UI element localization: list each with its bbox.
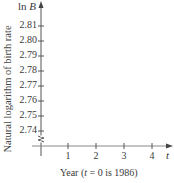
y-axis-label: Natural logarithm of birth rate — [2, 4, 16, 174]
y-tick-label: 2.79 — [13, 49, 37, 60]
y-axis-title: ln B — [18, 0, 36, 12]
x-tick-label: 2 — [90, 150, 102, 161]
y-tick-label: 2.80 — [13, 34, 37, 45]
y-axis-arrow-icon — [39, 1, 44, 8]
chart: ln B 2.81 2.80 2.79 2.78 2.77 2.76 2.75 … — [0, 0, 174, 183]
y-tick-label: 2.74 — [13, 124, 37, 135]
y-tick-label: 2.78 — [13, 64, 37, 75]
x-axis-label: Year (t = 0 is 1986) — [60, 167, 174, 178]
x-tick-label: 1 — [62, 150, 74, 161]
y-tick-label: 2.77 — [13, 79, 37, 90]
x-tick-label: 3 — [118, 150, 130, 161]
y-tick-label: 2.81 — [13, 19, 37, 30]
x-axis-arrow-icon — [166, 144, 173, 149]
y-tick-label: 2.76 — [13, 94, 37, 105]
x-tick-label: 4 — [146, 150, 158, 161]
x-axis-variable: t — [166, 149, 169, 161]
y-tick-label: 2.75 — [13, 109, 37, 120]
